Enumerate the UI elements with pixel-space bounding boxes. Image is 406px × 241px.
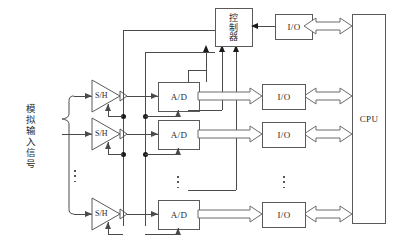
adc-io-buses xyxy=(0,0,406,241)
block-diagram: 模拟输入信号 S/H S/H S/H A/D A/D A/D xyxy=(0,0,406,241)
bus-arrow-adc3-io3 xyxy=(198,206,262,222)
bus-arrow-adc2-io2 xyxy=(198,126,262,142)
bus-arrow-adc1-io1 xyxy=(198,88,262,104)
